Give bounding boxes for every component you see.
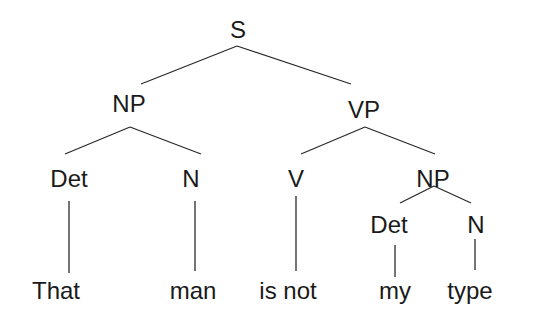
node-vp: VP bbox=[348, 96, 380, 123]
tree-nodes: S NP VP Det N V NP Det N bbox=[50, 16, 484, 238]
leaf-that: That bbox=[32, 277, 80, 304]
leaf-man: man bbox=[170, 277, 217, 304]
leaf-type: type bbox=[447, 277, 492, 304]
node-np-object: NP bbox=[416, 165, 449, 192]
tree-leaves: That man is not my type bbox=[32, 277, 493, 304]
node-n-object: N bbox=[467, 211, 484, 238]
edge-vp-np bbox=[365, 127, 435, 154]
leaf-my: my bbox=[379, 277, 411, 304]
edge-s-np bbox=[141, 46, 237, 84]
edge-np-n bbox=[130, 127, 201, 154]
node-np-subject: NP bbox=[112, 90, 145, 117]
node-n-subject: N bbox=[182, 165, 199, 192]
node-det-subject: Det bbox=[50, 165, 88, 192]
edge-vp-v bbox=[301, 127, 365, 154]
syntax-tree-diagram: S NP VP Det N V NP Det N That man is not… bbox=[0, 0, 555, 324]
node-v: V bbox=[288, 165, 304, 192]
node-det-object: Det bbox=[370, 211, 408, 238]
edge-s-vp bbox=[237, 46, 351, 84]
leaf-is-not: is not bbox=[259, 277, 317, 304]
edge-np-det bbox=[65, 127, 130, 154]
tree-edges bbox=[65, 46, 475, 277]
node-s: S bbox=[230, 16, 246, 43]
